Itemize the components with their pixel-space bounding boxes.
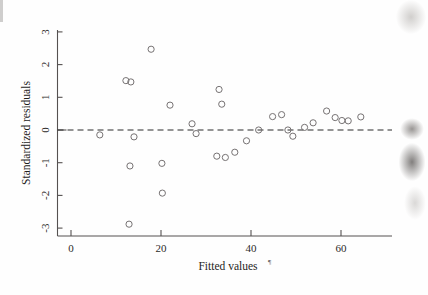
data-point: [219, 101, 225, 107]
x-tick-label-20: 20: [156, 242, 168, 254]
data-point: [216, 86, 222, 92]
y-tick-label-0: 0: [39, 127, 51, 133]
data-point: [159, 190, 165, 196]
data-point: [270, 113, 276, 119]
data-point: [126, 221, 132, 227]
data-point: [167, 102, 173, 108]
footnote-marker: ¶: [268, 258, 272, 266]
data-point: [127, 163, 133, 169]
data-point: [290, 133, 296, 139]
data-point: [97, 132, 103, 138]
y-tick-label--1: -1: [39, 158, 51, 167]
data-point: [358, 114, 364, 120]
data-point: [193, 130, 199, 136]
axes-group: [58, 30, 393, 236]
x-tick-label-40: 40: [246, 242, 258, 254]
y-tick-label-1: 1: [39, 95, 51, 101]
data-point: [159, 160, 165, 166]
y-axis-tick-labels: -3-2-10123: [39, 29, 51, 233]
data-point: [339, 117, 345, 123]
data-point: [324, 108, 330, 114]
y-tick-label-2: 2: [39, 62, 51, 68]
data-point: [232, 149, 238, 155]
residual-scatter-plot: -3-2-10123 0204060 Standardized residual…: [0, 0, 428, 295]
y-axis-title: Standardized residuals: [20, 81, 32, 185]
figure-page: -3-2-10123 0204060 Standardized residual…: [0, 0, 428, 295]
data-points-group: [97, 46, 364, 227]
data-point: [279, 112, 285, 118]
data-point: [131, 134, 137, 140]
x-axis-title: Fitted values: [198, 260, 258, 272]
x-tick-label-60: 60: [336, 242, 348, 254]
x-tick-label-0: 0: [68, 242, 74, 254]
data-point: [310, 120, 316, 126]
data-point: [214, 153, 220, 159]
data-point: [148, 46, 154, 52]
data-point: [345, 118, 351, 124]
data-point: [301, 124, 307, 130]
y-tick-label-3: 3: [39, 29, 51, 35]
x-axis-ticks: [71, 230, 341, 236]
data-point: [222, 154, 228, 160]
y-tick-label--3: -3: [39, 223, 51, 233]
y-tick-label--2: -2: [39, 191, 51, 200]
data-point: [189, 121, 195, 127]
x-axis-tick-labels: 0204060: [68, 242, 347, 254]
data-point: [332, 114, 338, 120]
data-point: [243, 138, 249, 144]
